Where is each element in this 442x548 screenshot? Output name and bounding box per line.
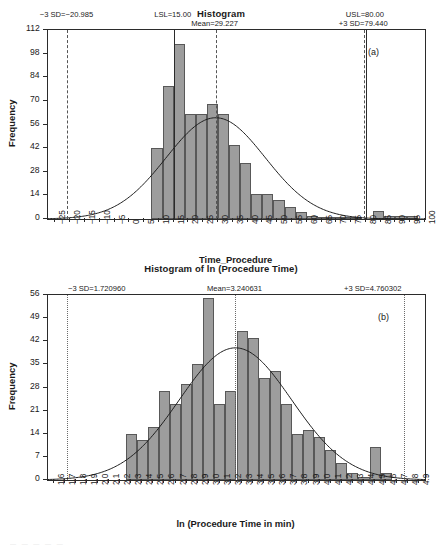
x-axis-tick-label: 4.9 bbox=[422, 474, 431, 485]
x-axis-tick bbox=[363, 479, 364, 483]
reference-label-minus_3_sd: −3 SD=−20.985 bbox=[40, 10, 93, 19]
histogram-bar bbox=[218, 114, 229, 219]
x-axis-tick bbox=[54, 218, 55, 222]
x-axis-tick-label: 0 bbox=[132, 219, 141, 224]
x-axis-tick bbox=[163, 479, 164, 483]
x-axis-tick bbox=[86, 479, 87, 483]
x-axis-tick bbox=[394, 218, 395, 222]
y-axis-tick bbox=[43, 363, 47, 364]
x-axis-tick bbox=[64, 479, 65, 483]
reference-line-plus_3_sd bbox=[364, 30, 365, 219]
x-axis-tick bbox=[152, 479, 153, 483]
x-axis-tick-label: −15 bbox=[88, 210, 97, 224]
panel-letter-b: (b) bbox=[378, 312, 389, 322]
x-axis-tick-label: 30 bbox=[221, 215, 230, 224]
x-axis-tick bbox=[173, 218, 174, 222]
histogram-bar bbox=[248, 338, 259, 480]
x-axis-tick bbox=[99, 218, 100, 222]
y-axis-tick-label: 14 bbox=[30, 427, 40, 437]
y-axis-tick-label: 56 bbox=[30, 288, 40, 298]
histogram-bar bbox=[192, 364, 203, 480]
y-axis-tick-label: 0 bbox=[35, 212, 40, 222]
histogram-bar bbox=[151, 148, 162, 219]
histogram-bar bbox=[270, 371, 281, 480]
y-axis-tick-label: 42 bbox=[30, 334, 40, 344]
x-axis-tick bbox=[69, 218, 70, 222]
x-axis-tick-label: −20 bbox=[73, 210, 82, 224]
x-axis-tick-label: 45 bbox=[265, 215, 274, 224]
y-axis-tick bbox=[43, 433, 47, 434]
chart-title-b: Histogram of ln (Procedure Time) bbox=[0, 263, 442, 274]
histogram-bar bbox=[174, 44, 185, 220]
y-axis-tick bbox=[43, 147, 47, 148]
histogram-bar bbox=[303, 430, 314, 480]
x-axis-tick bbox=[114, 218, 115, 222]
y-axis-tick-label: 28 bbox=[30, 381, 40, 391]
x-axis-tick bbox=[197, 479, 198, 483]
x-axis-tick-label: −10 bbox=[103, 210, 112, 224]
x-axis-tick bbox=[409, 218, 410, 222]
y-axis-tick-label: 42 bbox=[30, 141, 40, 151]
x-axis-tick-label: 60 bbox=[310, 215, 319, 224]
histogram-bar bbox=[181, 384, 192, 480]
x-axis-tick bbox=[274, 479, 275, 483]
reference-label-usl: USL=80.00 bbox=[346, 10, 384, 19]
x-axis-tick-label: 65 bbox=[325, 215, 334, 224]
x-axis-tick-label: 85 bbox=[384, 215, 393, 224]
x-axis-tick bbox=[232, 218, 233, 222]
x-axis-tick bbox=[396, 479, 397, 483]
reference-line-mean bbox=[216, 30, 217, 219]
x-axis-tick bbox=[291, 218, 292, 222]
histogram-bar bbox=[196, 114, 207, 219]
y-axis-tick bbox=[43, 317, 47, 318]
x-axis-tick-label: 100 bbox=[428, 210, 437, 224]
y-axis-tick bbox=[43, 340, 47, 341]
reference-line-lsl bbox=[174, 30, 175, 219]
y-axis-tick-label: 28 bbox=[30, 165, 40, 175]
y-axis-tick-label: 0 bbox=[35, 473, 40, 483]
x-axis-tick bbox=[330, 479, 331, 483]
x-axis-tick bbox=[319, 479, 320, 483]
x-axis-tick bbox=[352, 479, 353, 483]
x-axis-tick-label: 90 bbox=[398, 215, 407, 224]
x-axis-tick bbox=[186, 479, 187, 483]
y-axis-tick-label: 98 bbox=[30, 47, 40, 57]
y-axis-tick-label: 14 bbox=[30, 188, 40, 198]
histogram-bar bbox=[281, 404, 292, 480]
x-axis-tick bbox=[230, 479, 231, 483]
x-axis-tick bbox=[208, 479, 209, 483]
y-axis-tick-label: 7 bbox=[35, 450, 40, 460]
reference-line-mean bbox=[235, 295, 236, 480]
histogram-bar bbox=[163, 86, 174, 219]
x-axis-tick bbox=[219, 479, 220, 483]
x-axis-tick bbox=[306, 218, 307, 222]
x-axis-tick bbox=[130, 479, 131, 483]
reference-line-usl bbox=[366, 30, 367, 219]
histogram-bar bbox=[203, 298, 214, 480]
histogram-bar bbox=[159, 391, 170, 480]
y-axis-tick-label: 21 bbox=[30, 404, 40, 414]
x-axis-title-b: ln (Procedure Time in min) bbox=[177, 518, 295, 529]
x-axis-tick-label: 80 bbox=[369, 215, 378, 224]
y-axis-tick bbox=[43, 124, 47, 125]
x-axis-tick bbox=[75, 479, 76, 483]
x-axis-tick-label: 55 bbox=[295, 215, 304, 224]
x-axis-tick bbox=[143, 218, 144, 222]
x-axis-tick bbox=[84, 218, 85, 222]
x-axis-tick-label: 15 bbox=[177, 215, 186, 224]
y-axis-tick-label: 84 bbox=[30, 70, 40, 80]
x-axis-tick bbox=[175, 479, 176, 483]
x-axis-tick-label: 20 bbox=[191, 215, 200, 224]
x-axis-tick bbox=[261, 218, 262, 222]
y-axis-tick bbox=[43, 410, 47, 411]
x-axis-tick-label: 35 bbox=[236, 215, 245, 224]
x-axis-tick-label: 10 bbox=[162, 215, 171, 224]
panel-histogram-time-procedure: Histogram Frequency Time_Procedure (a) −… bbox=[0, 0, 442, 272]
reference-label-lsl: LSL=15.00 bbox=[154, 10, 191, 19]
x-axis-tick-label: −5 bbox=[118, 215, 127, 224]
page-footer-artifact: — — — — — bbox=[10, 541, 185, 546]
x-axis-tick bbox=[296, 479, 297, 483]
x-axis-tick bbox=[158, 218, 159, 222]
x-axis-tick-label: 50 bbox=[280, 215, 289, 224]
panel-histogram-ln-procedure-time: Histogram of ln (Procedure Time) Frequen… bbox=[0, 262, 442, 548]
